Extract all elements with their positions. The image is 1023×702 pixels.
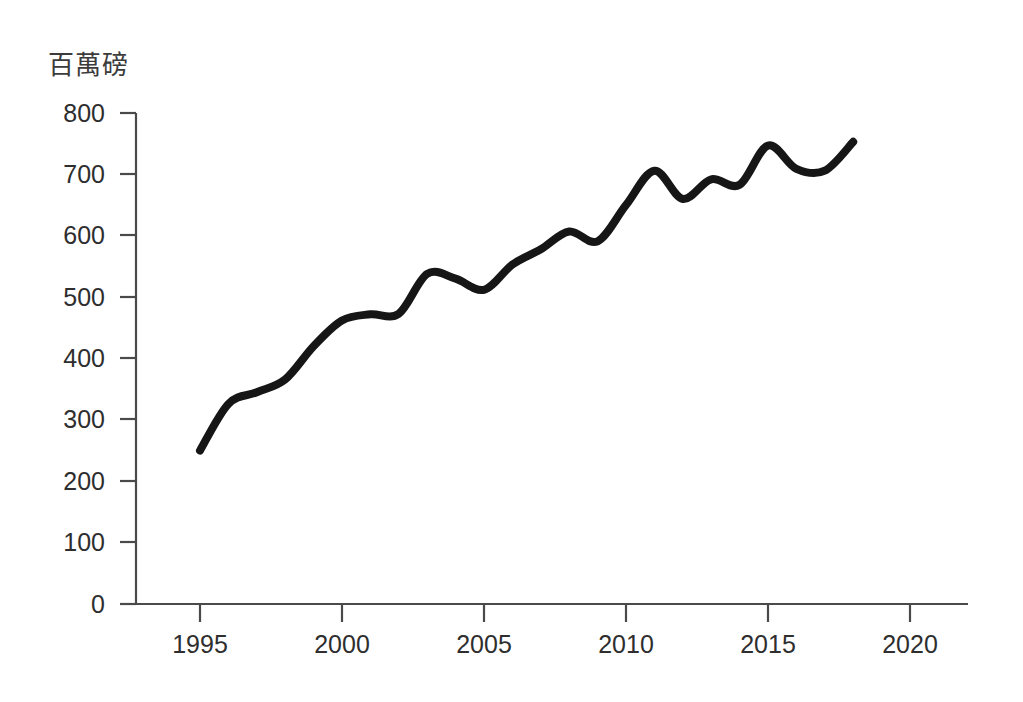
x-tick-label: 2000 <box>314 630 370 658</box>
y-tick-label: 400 <box>63 344 105 372</box>
x-tick-label: 2005 <box>456 630 512 658</box>
x-axis-tick-labels: 1995 2000 2005 2010 2015 2020 <box>172 630 938 658</box>
y-tick-label: 600 <box>63 221 105 249</box>
y-tick-label: 500 <box>63 283 105 311</box>
y-tick-label: 0 <box>91 590 105 618</box>
line-chart: 百萬磅 800 700 600 500 400 300 200 100 0 <box>0 0 1023 702</box>
y-axis-tick-labels: 800 700 600 500 400 300 200 100 0 <box>63 99 105 618</box>
y-tick-label: 800 <box>63 99 105 127</box>
y-tick-label: 300 <box>63 405 105 433</box>
y-axis-ticks <box>120 113 136 604</box>
x-axis-ticks <box>200 604 910 622</box>
x-tick-label: 1995 <box>172 630 228 658</box>
y-tick-label: 100 <box>63 528 105 556</box>
y-tick-label: 700 <box>63 160 105 188</box>
x-tick-label: 2015 <box>740 630 796 658</box>
x-tick-label: 2010 <box>598 630 654 658</box>
y-tick-label: 200 <box>63 467 105 495</box>
chart-canvas: 800 700 600 500 400 300 200 100 0 1995 2… <box>0 0 1023 702</box>
data-series-line <box>200 142 853 451</box>
x-tick-label: 2020 <box>882 630 938 658</box>
